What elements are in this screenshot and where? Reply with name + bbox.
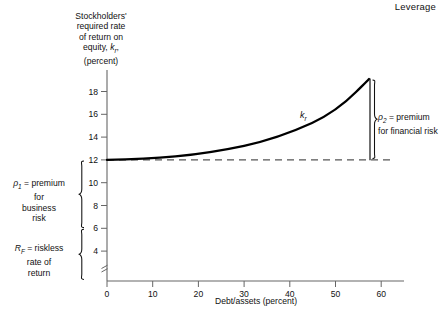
annotation-rf-sub: F [21,248,25,255]
annotation-rf: RF = riskless rate of return [2,243,76,278]
rho1-bracket [79,161,84,228]
annotation-rf-line-2: rate of [27,257,51,267]
series-label-kr-sub: r [305,115,307,122]
y-tick-label-6: 6 [93,223,98,233]
chart-figure: Stockholders' required rate of return on… [0,0,442,312]
x-axis-label-text: Debt/assets (percent) [215,296,297,306]
y-axis-symbol-sub: r [114,47,116,54]
y-tick-label-12: 12 [88,155,98,165]
series-kr-curve [107,79,369,160]
annotation-rf-line-3: return [28,268,50,278]
y-axis-label: Stockholders' required rate of return on… [40,11,162,67]
annotation-rho1-line-2: for [34,192,44,202]
rho2-bracket [373,80,378,159]
y-axis-label-line-4: equity, kr, [83,42,119,52]
y-axis-label-unit: (percent) [84,56,118,66]
x-axis-label: Debt/assets (percent) [0,296,442,306]
annotation-rho2-line-2: for financial risk [378,126,438,136]
y-axis-label-line-3: of return on [79,32,123,42]
annotation-rho1-line-1: = premium [24,178,65,188]
series-label-kr: kr [300,110,307,122]
y-tick-label-16: 16 [88,109,98,119]
y-tick-label-14: 14 [88,132,98,142]
rf-bracket [79,229,84,279]
annotation-rho2-sub: 2 [383,117,387,124]
annotation-rho1-line-3: business [22,203,56,213]
annotation-rho1-sub: 1 [18,183,22,190]
y-tick-label-10: 10 [88,178,98,188]
y-axis-label-line-2: required rate [77,21,126,31]
y-tick-group [101,92,107,252]
y-tick-label-8: 8 [93,201,98,211]
annotation-rho1-line-4: risk [32,213,45,223]
annotation-rho2: ρ2 = premium for financial risk [378,112,442,137]
y-axis-label-line-1: Stockholders' [75,11,126,21]
x-tick-group [107,281,381,287]
y-tick-label-4: 4 [93,246,98,256]
annotation-rho1: ρ1 = premium for business risk [2,178,76,223]
annotation-rho2-line-1: = premium [389,112,430,122]
annotation-rf-line-1: = riskless [27,243,63,253]
y-tick-label-18: 18 [88,87,98,97]
